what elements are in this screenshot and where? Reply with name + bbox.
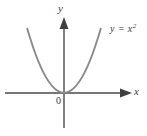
y-axis-label: y [58,3,63,14]
y-axis-arrowhead [60,17,69,29]
x-axis-arrowhead [120,89,132,98]
curve-equation-exponent: 2 [133,22,137,30]
curve-equation-label: y = x2 [110,24,137,34]
parabola-figure: y x 0 y = x2 [0,0,147,136]
curve-equation-base: y = x [110,23,133,34]
x-axis-label: x [134,86,139,97]
graph-canvas [0,0,147,136]
origin-label: 0 [56,96,61,106]
